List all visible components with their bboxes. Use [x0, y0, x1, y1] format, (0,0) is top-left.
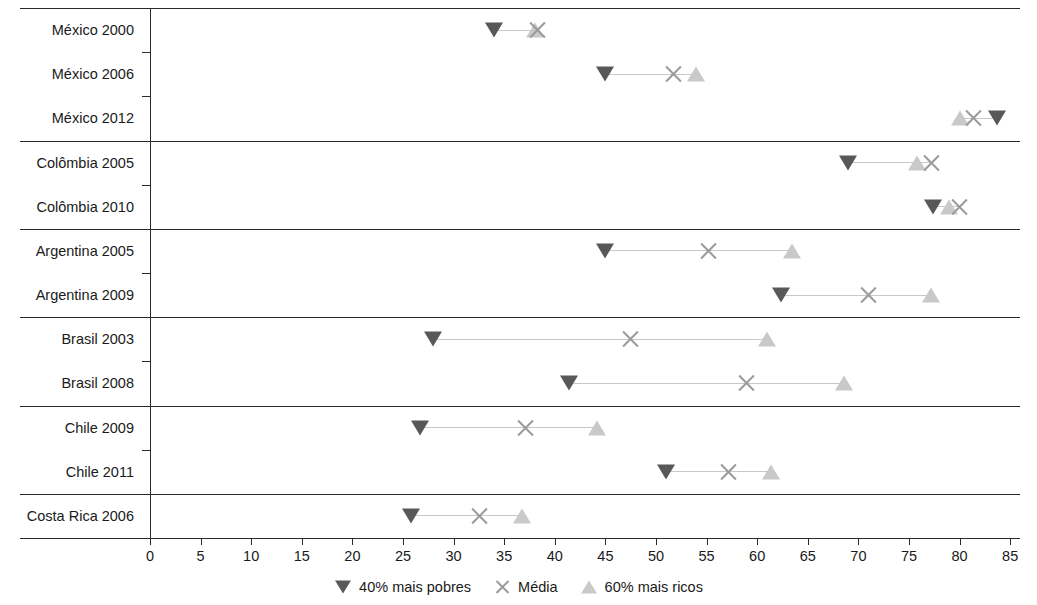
legend-label: 60% mais ricos	[605, 579, 703, 595]
group-separator-rule	[20, 141, 1020, 142]
x-axis-tick	[302, 538, 303, 545]
media-marker-icon	[527, 19, 549, 41]
media-marker-icon	[718, 461, 740, 483]
media-marker-icon-glyph	[963, 108, 984, 129]
y-axis-subtick	[142, 185, 151, 186]
category-label: Brasil 2008	[0, 375, 142, 391]
x-axis-tick	[150, 538, 151, 545]
media-marker-icon	[920, 152, 942, 174]
poorest40-marker-icon-glyph	[657, 464, 675, 479]
category-label: Colômbia 2010	[0, 199, 142, 215]
poorest40-marker-icon-glyph	[424, 332, 442, 347]
richest60-marker-icon	[685, 63, 707, 85]
range-connector-line	[433, 339, 767, 340]
x-axis-tick	[808, 538, 809, 545]
chart-root: México 2000México 2006México 2012Colômbi…	[0, 0, 1037, 605]
media-marker-icon	[963, 107, 985, 129]
media-marker-icon-glyph	[663, 64, 684, 85]
poorest40-marker-icon-glyph	[924, 199, 942, 214]
legend-triangle-down-icon	[334, 578, 352, 596]
richest60-marker-icon	[920, 284, 942, 306]
x-axis-tick-label: 85	[1002, 548, 1018, 564]
x-axis-tick-label: 65	[800, 548, 816, 564]
poorest40-marker-icon	[558, 372, 580, 394]
poorest40-marker-icon	[422, 328, 444, 350]
media-marker-icon	[514, 417, 536, 439]
media-marker-icon	[698, 240, 720, 262]
legend-item: Média	[493, 578, 558, 596]
richest60-marker-icon	[833, 372, 855, 394]
x-axis-tick-label: 70	[850, 548, 866, 564]
richest60-marker-icon-glyph	[783, 243, 801, 258]
poorest40-marker-icon	[409, 417, 431, 439]
x-axis-tick	[605, 538, 606, 545]
richest60-marker-icon	[781, 240, 803, 262]
poorest40-marker-icon	[655, 461, 677, 483]
y-axis-subtick	[142, 361, 151, 362]
poorest40-marker-icon-glyph	[560, 376, 578, 391]
chart-top-rule	[20, 8, 1020, 9]
poorest40-marker-icon	[400, 505, 422, 527]
richest60-marker-icon-glyph	[835, 376, 853, 391]
poorest40-marker-icon-glyph	[596, 67, 614, 82]
category-label: Argentina 2005	[0, 243, 142, 259]
media-marker-icon-glyph	[718, 461, 739, 482]
category-label: Chile 2011	[0, 464, 142, 480]
x-axis-tick	[352, 538, 353, 545]
x-axis-line	[20, 538, 1020, 539]
richest60-marker-icon	[760, 461, 782, 483]
x-axis-tick-label: 10	[243, 548, 259, 564]
category-label: México 2000	[0, 22, 142, 38]
x-axis-tick	[251, 538, 252, 545]
richest60-marker-icon-glyph	[687, 67, 705, 82]
poorest40-marker-icon	[483, 19, 505, 41]
richest60-marker-icon	[586, 417, 608, 439]
x-axis-tick	[1010, 538, 1011, 545]
x-axis-tick-label: 35	[496, 548, 512, 564]
legend-triangle-up-icon-glyph	[581, 581, 597, 594]
media-marker-icon	[858, 284, 880, 306]
legend-label: Média	[518, 579, 558, 595]
poorest40-marker-icon	[594, 63, 616, 85]
media-marker-icon-glyph	[515, 417, 536, 438]
category-label: Chile 2009	[0, 420, 142, 436]
media-marker-icon	[620, 328, 642, 350]
group-separator-rule	[20, 406, 1020, 407]
legend-item: 60% mais ricos	[580, 578, 703, 596]
group-separator-rule	[20, 229, 1020, 230]
x-axis-tick-label: 25	[395, 548, 411, 564]
x-axis-tick-label: 80	[952, 548, 968, 564]
media-marker-icon-glyph	[527, 20, 548, 41]
media-marker-icon-glyph	[858, 285, 879, 306]
poorest40-marker-icon	[594, 240, 616, 262]
x-axis-tick-label: 60	[749, 548, 765, 564]
x-axis-tick	[909, 538, 910, 545]
group-separator-rule	[20, 317, 1020, 318]
media-marker-icon-glyph	[736, 373, 757, 394]
x-axis-tick-label: 45	[597, 548, 613, 564]
poorest40-marker-icon	[770, 284, 792, 306]
x-axis-tick	[707, 538, 708, 545]
media-marker-icon	[949, 196, 971, 218]
legend-cross-icon-glyph	[494, 579, 511, 596]
y-axis-subtick	[142, 96, 151, 97]
richest60-marker-icon-glyph	[513, 508, 531, 523]
x-axis-tick-label: 0	[146, 548, 154, 564]
x-axis-tick-label: 50	[648, 548, 664, 564]
legend-label: 40% mais pobres	[359, 579, 471, 595]
poorest40-marker-icon	[986, 107, 1008, 129]
category-label: Argentina 2009	[0, 287, 142, 303]
x-axis-tick	[201, 538, 202, 545]
y-axis-subtick	[142, 52, 151, 53]
richest60-marker-icon-glyph	[762, 464, 780, 479]
media-marker-icon	[662, 63, 684, 85]
richest60-marker-icon	[511, 505, 533, 527]
x-axis-tick-label: 55	[699, 548, 715, 564]
media-marker-icon-glyph	[921, 152, 942, 173]
range-connector-line	[569, 383, 844, 384]
poorest40-marker-icon-glyph	[411, 420, 429, 435]
poorest40-marker-icon	[837, 152, 859, 174]
legend-cross-icon	[493, 578, 511, 596]
range-connector-line	[420, 427, 597, 428]
legend-triangle-up-icon	[580, 578, 598, 596]
